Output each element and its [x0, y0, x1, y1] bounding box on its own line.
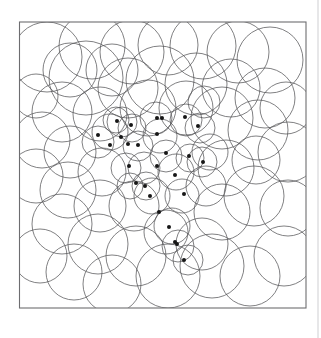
center-marker-dot — [143, 184, 147, 188]
circles-diagram-svg — [0, 0, 321, 338]
center-marker-dot — [127, 164, 131, 168]
center-marker-dot — [155, 164, 159, 168]
center-marker-dot — [126, 142, 130, 146]
center-marker-dot — [167, 225, 171, 229]
center-marker-dot — [134, 181, 138, 185]
center-marker-dot — [164, 151, 168, 155]
center-marker-dot — [96, 133, 100, 137]
center-marker-dot — [160, 116, 164, 120]
figure-background — [0, 0, 321, 338]
center-marker-dot — [108, 143, 112, 147]
figure-canvas — [0, 0, 321, 338]
center-marker-dot — [196, 124, 200, 128]
center-marker-dot — [182, 192, 186, 196]
center-marker-dot — [155, 132, 159, 136]
center-marker-dot — [136, 143, 140, 147]
center-marker-dot — [157, 210, 161, 214]
center-marker-dot — [148, 194, 152, 198]
center-marker-dot — [183, 115, 187, 119]
center-marker-dot — [155, 116, 159, 120]
center-marker-dot — [187, 154, 191, 158]
center-marker-dot — [129, 123, 133, 127]
center-marker-dot — [115, 119, 119, 123]
center-marker-dot — [182, 258, 186, 262]
center-marker-dot — [201, 160, 205, 164]
center-marker-dot — [175, 242, 179, 246]
center-marker-dot — [119, 135, 123, 139]
center-marker-dot — [173, 173, 177, 177]
